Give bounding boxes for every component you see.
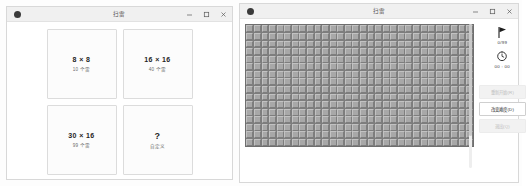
board-scrollbar[interactable] xyxy=(469,24,472,168)
board-cell[interactable] xyxy=(345,63,352,70)
preset-beginner[interactable]: 8 × 8 10 个雷 xyxy=(47,29,117,99)
board-cell[interactable] xyxy=(443,63,450,70)
board-cell[interactable] xyxy=(352,124,359,131)
board-cell[interactable] xyxy=(368,131,375,138)
board-cell[interactable] xyxy=(443,101,450,108)
board-cell[interactable] xyxy=(254,78,261,85)
board-cell[interactable] xyxy=(322,56,329,63)
board-cell[interactable] xyxy=(292,139,299,146)
board-cell[interactable] xyxy=(322,71,329,78)
board-cell[interactable] xyxy=(307,33,314,40)
board-cell[interactable] xyxy=(299,78,306,85)
board-cell[interactable] xyxy=(246,86,253,93)
board-cell[interactable] xyxy=(352,71,359,78)
board-cell[interactable] xyxy=(451,101,458,108)
board-cell[interactable] xyxy=(299,94,306,101)
board-cell[interactable] xyxy=(330,131,337,138)
board-cell[interactable] xyxy=(459,63,466,70)
maximize-icon[interactable] xyxy=(484,4,501,19)
board-cell[interactable] xyxy=(299,48,306,55)
board-cell[interactable] xyxy=(277,63,284,70)
board-cell[interactable] xyxy=(405,41,412,48)
board-cell[interactable] xyxy=(307,78,314,85)
board-cell[interactable] xyxy=(368,25,375,32)
board-cell[interactable] xyxy=(398,71,405,78)
board-cell[interactable] xyxy=(375,86,382,93)
board-cell[interactable] xyxy=(360,48,367,55)
board-cell[interactable] xyxy=(277,56,284,63)
board-cell[interactable] xyxy=(284,109,291,116)
board-cell[interactable] xyxy=(262,109,269,116)
board-cell[interactable] xyxy=(330,94,337,101)
board-cell[interactable] xyxy=(398,109,405,116)
board-cell[interactable] xyxy=(451,25,458,32)
board-cell[interactable] xyxy=(421,63,428,70)
board-cell[interactable] xyxy=(246,124,253,131)
board-cell[interactable] xyxy=(254,56,261,63)
board-cell[interactable] xyxy=(360,71,367,78)
board-cell[interactable] xyxy=(375,109,382,116)
board-cell[interactable] xyxy=(421,25,428,32)
board-cell[interactable] xyxy=(390,25,397,32)
board-cell[interactable] xyxy=(383,56,390,63)
board-cell[interactable] xyxy=(307,131,314,138)
board-cell[interactable] xyxy=(421,139,428,146)
minimize-icon[interactable] xyxy=(181,7,198,22)
board-cell[interactable] xyxy=(262,41,269,48)
board-cell[interactable] xyxy=(428,86,435,93)
board-cell[interactable] xyxy=(254,71,261,78)
board-cell[interactable] xyxy=(246,25,253,32)
board-cell[interactable] xyxy=(421,71,428,78)
board-cell[interactable] xyxy=(246,33,253,40)
board-cell[interactable] xyxy=(284,116,291,123)
board-cell[interactable] xyxy=(360,56,367,63)
board-cell[interactable] xyxy=(390,116,397,123)
board-cell[interactable] xyxy=(443,41,450,48)
board-cell[interactable] xyxy=(246,56,253,63)
board-cell[interactable] xyxy=(277,25,284,32)
board-cell[interactable] xyxy=(337,86,344,93)
board-cell[interactable] xyxy=(307,101,314,108)
board-cell[interactable] xyxy=(322,33,329,40)
board-cell[interactable] xyxy=(254,109,261,116)
board-cell[interactable] xyxy=(277,86,284,93)
board-cell[interactable] xyxy=(428,116,435,123)
board-cell[interactable] xyxy=(413,131,420,138)
board-cell[interactable] xyxy=(421,94,428,101)
board-cell[interactable] xyxy=(428,48,435,55)
board-cell[interactable] xyxy=(345,78,352,85)
board-cell[interactable] xyxy=(459,41,466,48)
board-cell[interactable] xyxy=(315,63,322,70)
board-cell[interactable] xyxy=(345,25,352,32)
board-cell[interactable] xyxy=(269,94,276,101)
board-cell[interactable] xyxy=(368,71,375,78)
board-cell[interactable] xyxy=(390,86,397,93)
board-cell[interactable] xyxy=(277,116,284,123)
board-cell[interactable] xyxy=(375,41,382,48)
board-cell[interactable] xyxy=(277,33,284,40)
board-cell[interactable] xyxy=(322,86,329,93)
board-cell[interactable] xyxy=(390,78,397,85)
preset-expert[interactable]: 30 × 16 99 个雷 xyxy=(47,105,117,175)
board-cell[interactable] xyxy=(322,94,329,101)
board-cell[interactable] xyxy=(330,101,337,108)
board-cell[interactable] xyxy=(443,139,450,146)
board-cell[interactable] xyxy=(413,109,420,116)
board-cell[interactable] xyxy=(451,109,458,116)
board-cell[interactable] xyxy=(277,101,284,108)
board-cell[interactable] xyxy=(292,116,299,123)
board-cell[interactable] xyxy=(383,25,390,32)
board-cell[interactable] xyxy=(299,71,306,78)
board-cell[interactable] xyxy=(436,131,443,138)
board-cell[interactable] xyxy=(398,101,405,108)
board-cell[interactable] xyxy=(451,124,458,131)
board-cell[interactable] xyxy=(368,78,375,85)
board-cell[interactable] xyxy=(443,48,450,55)
board-cell[interactable] xyxy=(421,33,428,40)
board-cell[interactable] xyxy=(451,131,458,138)
board-cell[interactable] xyxy=(254,139,261,146)
board-cell[interactable] xyxy=(390,33,397,40)
board-cell[interactable] xyxy=(459,94,466,101)
board-cell[interactable] xyxy=(292,78,299,85)
board-cell[interactable] xyxy=(330,41,337,48)
